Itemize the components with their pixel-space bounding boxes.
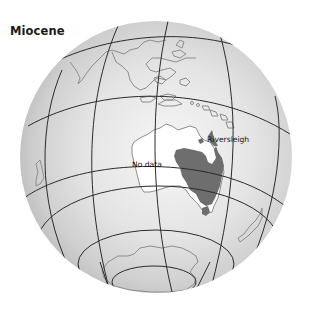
globe-map: Riversleigh No data — [0, 0, 309, 313]
label-riversleigh: Riversleigh — [207, 135, 249, 144]
label-no-data: No data — [132, 160, 162, 169]
